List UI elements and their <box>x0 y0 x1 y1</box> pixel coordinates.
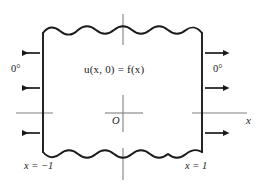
slab-outline <box>43 26 202 158</box>
heat-slab-diagram: u(x, 0) = f(x) 0° 0° x = −1 x = 1 O x <box>0 0 272 192</box>
left-edge-label: x = −1 <box>24 161 53 172</box>
origin-label: O <box>112 116 120 127</box>
initial-condition-label: u(x, 0) = f(x) <box>84 64 144 75</box>
right-boundary-temperature-label: 0° <box>213 64 222 75</box>
left-boundary-temperature-label: 0° <box>11 64 20 75</box>
x-axis-label: x <box>246 115 251 126</box>
right-edge-label: x = 1 <box>185 161 207 172</box>
left-flux-arrows <box>22 53 40 133</box>
